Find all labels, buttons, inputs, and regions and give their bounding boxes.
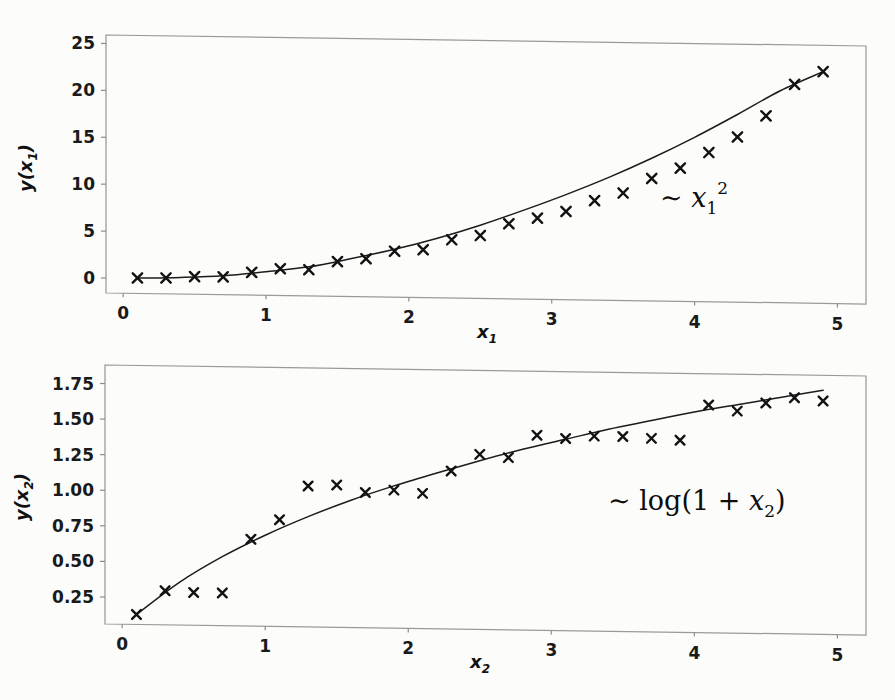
data-point-marker [590,196,599,205]
data-point-marker [704,148,713,157]
x-tick-label: 0 [116,634,128,654]
data-point-marker [561,207,570,216]
figure-canvas: 0123450510152025x1y(x1)∼ x12 0123450.250… [0,0,895,700]
y-tick-label: 0.25 [52,587,94,607]
x-tick-label: 1 [260,305,272,325]
x-tick-label: 1 [259,636,271,656]
data-point-marker [647,174,656,183]
y-tick-label: 0.50 [52,551,94,571]
data-point-marker [790,80,799,89]
data-point-marker [275,515,284,524]
x-tick-label: 3 [545,640,557,660]
y-tick-label: 25 [71,33,95,53]
data-point-marker [475,450,484,459]
x-tick-label: 2 [403,307,415,327]
data-point-marker [418,489,427,498]
x-tick-label: 2 [402,638,414,658]
y-tick-label: 1.50 [52,409,94,429]
x-tick-label: 4 [689,312,701,332]
data-point-marker [533,213,542,222]
data-point-marker [761,111,770,120]
axes-frame [106,35,866,304]
data-point-marker [733,407,742,416]
data-point-marker [447,235,456,244]
y-tick-label: 20 [71,80,95,100]
data-point-marker [447,467,456,476]
y-axis-label: y(x2) [11,473,36,521]
y-tick-label: 1.00 [52,480,94,500]
data-point-marker [819,397,828,406]
data-point-marker [390,247,399,256]
data-point-marker [189,588,198,597]
data-point-marker [618,432,627,441]
data-point-marker [304,482,313,491]
x-tick-label: 0 [117,303,129,323]
fit-curve [137,72,823,278]
data-point-marker [618,188,627,197]
x-tick-label: 5 [832,314,844,334]
scaling-annotation: ∼ log(1 + x2) [608,485,786,521]
data-point-marker [218,589,227,598]
y-tick-label: 0.75 [52,516,94,536]
y-tick-label: 10 [71,174,95,194]
data-point-marker [476,231,485,240]
data-point-marker [218,272,227,281]
y-tick-label: 1.75 [52,374,94,394]
y-tick-label: 15 [71,127,95,147]
data-point-marker [418,245,427,254]
data-point-marker [504,219,513,228]
x-tick-label: 3 [546,309,558,329]
data-point-marker [676,436,685,445]
y-tick-label: 0 [83,268,95,288]
y-tick-label: 1.25 [52,445,94,465]
x-tick-label: 5 [831,645,843,665]
chart-panel-top: 0123450510152025x1y(x1)∼ x12 [15,33,866,346]
data-point-marker [818,67,827,76]
data-point-marker [132,610,141,619]
x-axis-label: x2 [469,651,490,676]
data-point-marker [533,431,542,440]
data-point-marker [647,434,656,443]
data-point-marker [390,486,399,495]
data-point-marker [704,401,713,410]
data-point-marker [504,453,513,462]
data-point-series [133,67,828,283]
data-point-marker [676,163,685,172]
scaling-annotation: ∼ x12 [660,178,728,218]
y-axis-label: y(x1) [15,144,40,192]
y-tick-label: 5 [83,221,95,241]
data-point-marker [276,264,285,273]
data-point-marker [332,481,341,490]
chart-panel-bottom: 0123450.250.500.751.001.251.501.75x2y(x2… [11,365,866,676]
matplotlib-figure: 0123450510152025x1y(x1)∼ x12 0123450.250… [0,0,895,700]
x-tick-label: 4 [688,643,700,663]
x-axis-label: x1 [476,321,497,346]
data-point-marker [733,132,742,141]
